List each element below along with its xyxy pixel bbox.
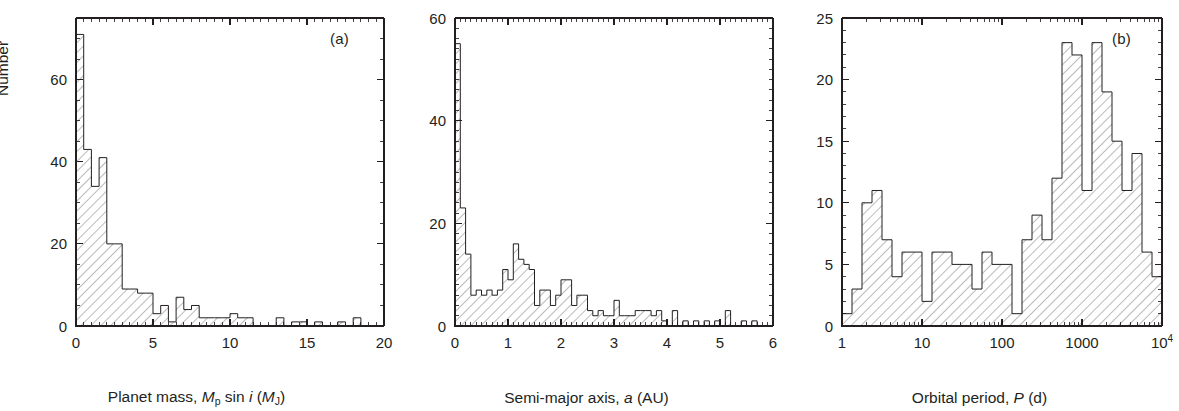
panel-b-semi-major-axis: 01234560204060 (b) Semi-major axis, a (A… <box>390 0 783 411</box>
y-tick-label: 25 <box>816 10 833 27</box>
y-tick-label: 10 <box>816 194 833 211</box>
panel-a-x-axis-title: Planet mass, Mp sin i (MJ) <box>0 388 393 407</box>
y-tick-label: 15 <box>816 133 833 150</box>
panel-a-y-axis-title: Number <box>0 41 12 96</box>
x-tick-label: 104 <box>1151 333 1174 351</box>
y-axis-ticks: 0204060 <box>429 10 773 335</box>
x-tick-label: 1 <box>838 334 846 351</box>
panel-a-plot: 051015200204060 <box>0 0 393 411</box>
x-tick-label: 6 <box>769 334 777 351</box>
x-tick-label: 1000 <box>1065 334 1098 351</box>
y-tick-label: 20 <box>50 235 67 252</box>
xlabel-text-b2: (AU) <box>633 389 669 406</box>
y-tick-label: 20 <box>429 215 446 232</box>
y-tick-label: 0 <box>59 318 67 335</box>
x-tick-label: 2 <box>557 334 565 351</box>
y-tick-label: 20 <box>816 71 833 88</box>
xlabel-text-a3: sin <box>220 388 248 405</box>
xlabel-text-c1: P <box>1014 389 1024 406</box>
histogram-bars-outline <box>76 34 384 326</box>
xlabel-text-b1: a <box>624 389 633 406</box>
y-tick-label: 60 <box>50 71 67 88</box>
x-tick-label: 5 <box>149 334 157 351</box>
x-tick-label: 100 <box>989 334 1014 351</box>
histogram-bars-fill <box>842 43 1162 326</box>
xlabel-text-a6: M <box>262 388 275 405</box>
y-tick-label: 40 <box>429 112 446 129</box>
panel-b-plot: 01234560204060 <box>390 0 783 411</box>
x-tick-label: 3 <box>610 334 618 351</box>
panel-c-orbital-period: 11010010001040510152025 (c) Orbital peri… <box>780 0 1179 411</box>
histogram-bars-outline <box>455 44 773 326</box>
x-tick-label: 0 <box>72 334 80 351</box>
x-tick-label: 10 <box>222 334 239 351</box>
xlabel-text-a8: ) <box>280 388 285 405</box>
x-tick-label: 10 <box>914 334 931 351</box>
y-tick-label: 0 <box>825 318 833 335</box>
xlabel-text-a1: M <box>202 388 215 405</box>
xlabel-text-b0: Semi-major axis, <box>504 389 624 406</box>
y-tick-label: 40 <box>50 153 67 170</box>
x-tick-label: 1 <box>504 334 512 351</box>
xlabel-text-c2: (d) <box>1024 389 1047 406</box>
panel-c-x-axis-title: Orbital period, P (d) <box>780 389 1179 407</box>
panel-a-label: (a) <box>330 30 349 47</box>
panel-a-planet-mass: 051015200204060 (a) Number Planet mass, … <box>0 0 393 411</box>
exoplanet-histograms-figure: 051015200204060 (a) Number Planet mass, … <box>0 0 1179 411</box>
panel-b-x-axis-title: Semi-major axis, a (AU) <box>390 389 783 407</box>
x-tick-label: 0 <box>451 334 459 351</box>
y-tick-label: 0 <box>438 318 446 335</box>
panel-c-plot: 11010010001040510152025 <box>780 0 1179 411</box>
xlabel-text-c0: Orbital period, <box>912 389 1014 406</box>
y-tick-label: 60 <box>429 10 446 27</box>
x-tick-label: 15 <box>299 334 316 351</box>
x-tick-label: 4 <box>663 334 671 351</box>
x-tick-label: 5 <box>716 334 724 351</box>
xlabel-text-a0: Planet mass, <box>108 388 202 405</box>
y-tick-label: 5 <box>825 256 833 273</box>
xlabel-text-a5: ( <box>252 388 261 405</box>
